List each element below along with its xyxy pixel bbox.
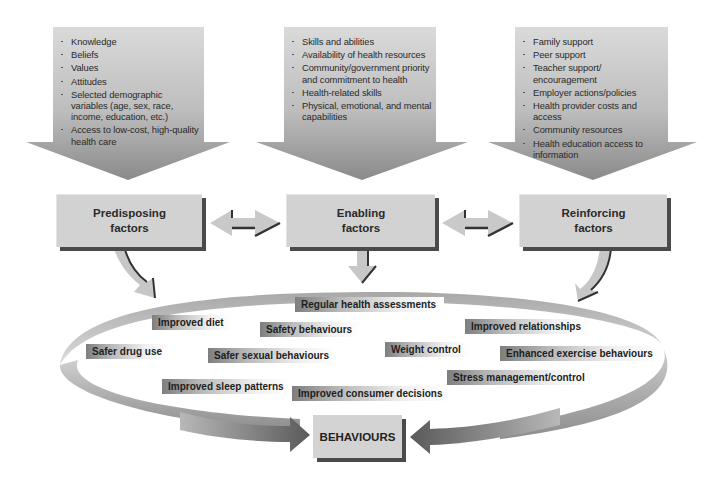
list-item: Selected demographic variables (age, sex… <box>60 89 200 123</box>
list-item: Access to low-cost, high-quality health … <box>60 124 200 146</box>
list-item: Community resources <box>522 124 662 135</box>
predisposing-to-ring-arrow <box>113 246 155 298</box>
list-item: Skills and abilities <box>291 36 439 47</box>
tag-safer-drug-use: Safer drug use <box>86 344 170 359</box>
list-item: Beliefs <box>60 49 200 60</box>
list-item: Health education access to information <box>522 138 662 160</box>
reinforcing-list: Family support Peer support Teacher supp… <box>522 36 662 162</box>
behaviour-ring-front <box>60 360 300 431</box>
list-item: Employer actions/policies <box>522 87 662 98</box>
tag-improved-diet: Improved diet <box>152 315 232 330</box>
tag-improved-consumer-decisions: Improved consumer decisions <box>292 386 451 401</box>
factor-subtitle: factors <box>93 221 166 236</box>
tag-safety-behaviours: Safety behaviours <box>260 322 360 337</box>
list-item: Health-related skills <box>291 87 439 98</box>
factor-subtitle: factors <box>337 221 386 236</box>
diagram-canvas: Knowledge Beliefs Values Attitudes Selec… <box>0 0 723 482</box>
factor-title: Predisposing <box>93 206 166 221</box>
tag-improved-relationships: Improved relationships <box>465 319 589 334</box>
reinforcing-to-ring-arrow <box>575 247 611 301</box>
list-item: Values <box>60 62 200 73</box>
list-item: Family support <box>522 36 662 47</box>
factor-title: Reinforcing <box>562 206 626 221</box>
reinforcing-factors-box: Reinforcingfactors <box>519 194 667 247</box>
enabling-factors-box: Enablingfactors <box>286 194 435 247</box>
tag-safer-sexual-behaviours: Safer sexual behaviours <box>208 348 337 363</box>
enabling-list: Skills and abilities Availability of hea… <box>291 36 439 124</box>
factor-subtitle: factors <box>562 221 626 236</box>
tag-improved-sleep-patterns: Improved sleep patterns <box>162 379 292 394</box>
predisposing-list: Knowledge Beliefs Values Attitudes Selec… <box>60 36 200 149</box>
list-item: Physical, emotional, and mental capabili… <box>291 100 439 122</box>
behaviours-outcome-box: BEHAVIOURS <box>313 415 402 458</box>
tag-stress-management-control: Stress management/control <box>447 370 593 385</box>
tag-weight-control: Weight control <box>385 342 469 357</box>
list-item: Teacher support/ encouragement <box>522 62 662 84</box>
tag-regular-health-assessments: Regular health assessments <box>295 297 444 312</box>
tag-enhanced-exercise-behaviours: Enhanced exercise behaviours <box>500 346 661 361</box>
enabling-reinforcing-double-arrow-icon <box>442 210 513 236</box>
list-item: Availability of health resources <box>291 49 439 60</box>
predisposing-factors-box: Predisposingfactors <box>56 194 202 247</box>
list-item: Knowledge <box>60 36 200 47</box>
list-item: Attitudes <box>60 76 200 87</box>
enabling-to-ring-arrow <box>348 248 376 283</box>
list-item: Community/government priority and commit… <box>291 62 439 84</box>
factor-title: Enabling <box>337 206 386 221</box>
list-item: Peer support <box>522 49 662 60</box>
list-item: Health provider costs and access <box>522 100 662 122</box>
predisposing-enabling-double-arrow-icon <box>210 210 280 236</box>
